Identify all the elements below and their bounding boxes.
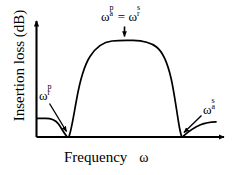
omega-r-p-scripts: pr: [48, 87, 53, 100]
x-axis-label: Frequencyω: [64, 149, 149, 166]
subscript-a: a: [212, 103, 216, 111]
left-marker-arrow-icon: [50, 104, 67, 132]
omega-glyph: ω: [101, 9, 110, 24]
right-marker-arrow-icon: [184, 116, 202, 133]
omega-glyph: ω: [39, 88, 48, 103]
subscript-r: r: [48, 89, 51, 97]
omega-a-p-scripts: pa: [110, 8, 115, 21]
omega-glyph-2: ω: [128, 9, 137, 24]
passband-curve: [69, 40, 182, 136]
x-axis-label-text: Frequency: [64, 149, 127, 165]
annotation-omega-a-s: ωsa: [203, 101, 217, 116]
insertion-loss-figure: Insertion loss (dB) Frequencyω ωpa = ωsr…: [0, 0, 237, 175]
equals-sign: =: [118, 9, 125, 24]
omega-r-s-scripts: sr: [137, 8, 142, 21]
left-stopband-curve: [38, 118, 67, 136]
omega-glyph: ω: [203, 102, 212, 117]
omega-a-s-scripts: sa: [212, 101, 217, 114]
subscript-a: a: [110, 10, 114, 18]
annotation-omega-r-p: ωpr: [39, 87, 53, 102]
annotation-omega-a-p-equals-omega-r-s: ωpa = ωsr: [101, 8, 142, 23]
y-axis-label: Insertion loss (dB): [11, 0, 28, 136]
subscript-r: r: [137, 10, 140, 18]
x-axis-omega-symbol: ω: [139, 150, 148, 166]
